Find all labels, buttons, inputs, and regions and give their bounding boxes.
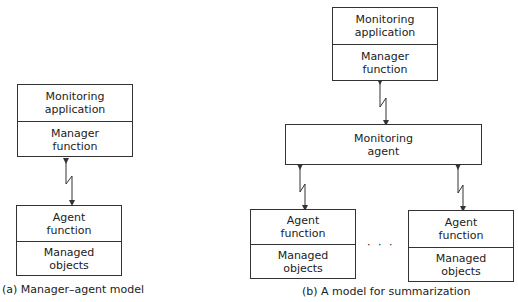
b-monitoring-agent: Monitoring agent xyxy=(285,124,482,165)
b-manager-function: Manager function xyxy=(333,45,437,81)
b-agent-stack-right: Agent function Managed objects xyxy=(408,210,514,282)
b-monitoring-agent-label: Monitoring agent xyxy=(286,125,481,164)
b-managed-objects-left: Managed objects xyxy=(251,245,355,279)
b-agent-stack-left: Agent function Managed objects xyxy=(250,209,356,279)
b-agent-function-right: Agent function xyxy=(409,211,513,247)
a-managed-objects: Managed objects xyxy=(17,242,121,276)
b-managed-objects-right: Managed objects xyxy=(409,248,513,282)
b-agent-function-left: Agent function xyxy=(251,210,355,244)
a-monitoring-application: Monitoring application xyxy=(18,85,132,121)
b-manager-stack: Monitoring application Manager function xyxy=(332,7,438,81)
link-b-left xyxy=(300,167,305,208)
b-monitoring-application: Monitoring application xyxy=(333,8,437,44)
link-b-right xyxy=(458,167,463,209)
a-manager-stack: Monitoring application Manager function xyxy=(17,84,133,157)
a-manager-function: Manager function xyxy=(18,122,132,157)
a-agent-function: Agent function xyxy=(17,206,121,241)
a-agent-stack: Agent function Managed objects xyxy=(16,205,122,276)
caption-a: (a) Manager–agent model xyxy=(2,283,144,296)
link-a xyxy=(66,161,72,203)
caption-b: (b) A model for summarization xyxy=(302,285,471,298)
ellipsis: · · · xyxy=(367,238,394,251)
link-b-top xyxy=(380,82,386,123)
